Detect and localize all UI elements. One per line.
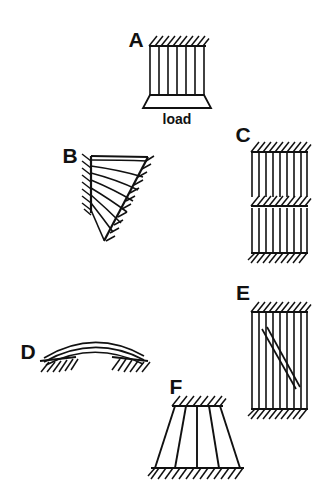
load-label: load: [163, 111, 192, 127]
panel-label-d: D: [20, 340, 35, 363]
panel-label-f: F: [170, 375, 183, 398]
panel-label-e: E: [236, 281, 250, 304]
panel-label-a: A: [128, 28, 143, 51]
panel-label-b: B: [62, 144, 77, 167]
panel-label-c: C: [235, 123, 250, 146]
figure-background: [0, 0, 326, 497]
panel-b-top-edge: [91, 156, 148, 157]
structural-failure-modes-figure: A load B: [0, 0, 326, 497]
